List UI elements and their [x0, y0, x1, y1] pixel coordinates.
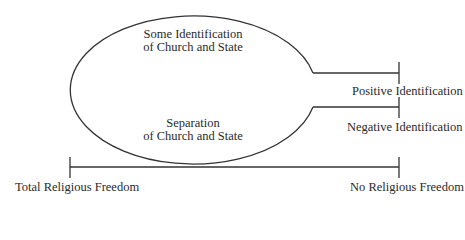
top-label: Some Identification of Church and State: [133, 28, 253, 54]
top-label-line2: of Church and State: [133, 41, 253, 54]
total-religious-freedom-label: Total Religious Freedom: [15, 181, 139, 194]
positive-identification-label: Positive Identification: [352, 85, 463, 98]
no-religious-freedom-label: No Religious Freedom: [350, 181, 464, 194]
negative-identification-label: Negative Identification: [347, 121, 463, 134]
bottom-label: Separation of Church and State: [133, 117, 253, 143]
bottom-label-line2: of Church and State: [133, 130, 253, 143]
